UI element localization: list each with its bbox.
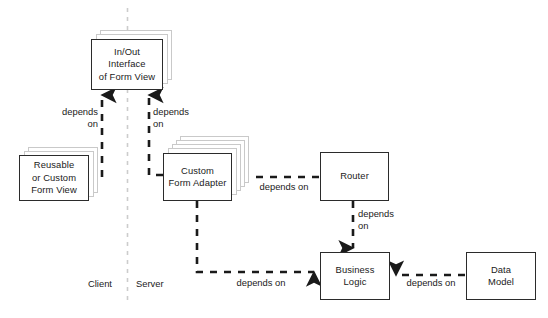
- edge-label-router-to-adapter: depends on: [251, 181, 317, 193]
- edge-adapter-to-business-logic: [197, 201, 314, 272]
- edge-label-data-model-to-business-logic: depends on: [398, 277, 464, 289]
- edge-label-adapter-to-interface: depends on: [153, 106, 203, 129]
- edge-label-router-to-business-logic: depends on: [358, 208, 410, 231]
- node-router[interactable]: Router: [320, 152, 389, 201]
- node-inout-interface-label: In/Out Interface of Form View: [96, 46, 158, 83]
- edge-label-adapter-to-business-logic: depends on: [228, 277, 294, 289]
- node-reusable-form-view[interactable]: Reusable or Custom Form View: [19, 155, 89, 201]
- node-reusable-form-view-label: Reusable or Custom Form View: [28, 159, 80, 196]
- zone-label-server: Server: [136, 278, 164, 289]
- edge-label-reusable-to-interface: depends on: [50, 106, 98, 129]
- node-inout-interface[interactable]: In/Out Interface of Form View: [91, 39, 163, 90]
- node-router-label: Router: [337, 170, 372, 182]
- node-business-logic-label: Business Logic: [333, 264, 378, 289]
- architecture-diagram: In/Out Interface of Form View Reusable o…: [0, 0, 548, 318]
- node-data-model[interactable]: Data Model: [466, 252, 536, 300]
- node-business-logic[interactable]: Business Logic: [320, 252, 390, 300]
- zone-label-client: Client: [88, 278, 112, 289]
- node-data-model-label: Data Model: [485, 264, 517, 289]
- node-custom-form-adapter-label: Custom Form Adapter: [166, 165, 230, 190]
- node-custom-form-adapter[interactable]: Custom Form Adapter: [163, 153, 232, 201]
